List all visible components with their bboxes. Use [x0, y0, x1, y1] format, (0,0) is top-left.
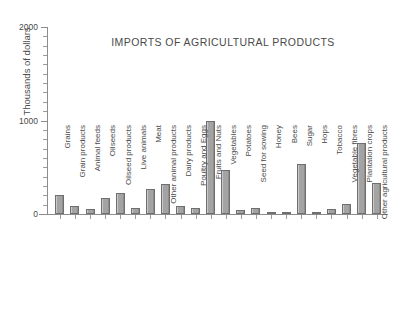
- x-axis-tick: [75, 215, 76, 219]
- x-axis-tick-label: Fruits and Nuts: [214, 125, 223, 221]
- x-axis-tick-label: Grains: [63, 125, 72, 221]
- x-axis-tick: [165, 215, 166, 219]
- x-axis-tick: [120, 215, 121, 219]
- x-axis-tick-label: Tobacco: [335, 125, 344, 221]
- x-axis-label-wrap: Other agricultural products: [380, 125, 389, 221]
- x-axis-tick: [347, 215, 348, 219]
- x-axis-tick-label: Grain products: [78, 125, 87, 221]
- x-axis-label-wrap: Live animals: [139, 125, 148, 221]
- x-axis-tick-label: Poultry and Eggs: [199, 125, 208, 221]
- x-axis-tick-label: Vegetables: [229, 125, 238, 221]
- x-axis-tick: [362, 215, 363, 219]
- x-axis-tick-label: Oilseeds: [108, 125, 117, 221]
- y-axis-tick-label: 2000: [0, 22, 38, 32]
- x-axis-tick: [150, 215, 151, 219]
- x-axis-tick: [60, 215, 61, 219]
- x-axis-label-wrap: Honey: [274, 125, 283, 221]
- x-axis-tick: [256, 215, 257, 219]
- x-axis-tick-label: Oilseed products: [124, 125, 133, 221]
- x-axis-label-wrap: Hops: [320, 125, 329, 221]
- x-axis-label-wrap: Seed for sowing: [259, 125, 268, 221]
- x-axis-tick: [331, 215, 332, 219]
- x-axis-tick: [211, 215, 212, 219]
- bar-chart: IMPORTS OF AGRICULTURAL PRODUCTS Thousan…: [0, 0, 396, 319]
- x-axis-tick: [226, 215, 227, 219]
- x-axis-label-wrap: Meat: [154, 125, 163, 221]
- x-axis-label-wrap: Potatoes: [244, 125, 253, 221]
- x-axis-label-wrap: Bees: [290, 125, 299, 221]
- x-axis-tick-label: Plantation crops: [365, 125, 374, 221]
- x-axis-label-wrap: Plantation crops: [365, 125, 374, 221]
- y-axis-tick-major: [41, 214, 47, 215]
- x-axis-tick: [271, 215, 272, 219]
- x-axis-tick: [377, 215, 378, 219]
- x-axis-tick-label: Meat: [154, 125, 163, 221]
- x-axis-tick: [316, 215, 317, 219]
- x-axis-tick-label: Live animals: [139, 125, 148, 221]
- y-axis-tick-label: 0: [0, 209, 38, 219]
- x-axis-label-wrap: Fruits and Nuts: [214, 125, 223, 221]
- x-axis-label-wrap: Grains: [63, 125, 72, 221]
- x-axis-label-wrap: Poultry and Eggs: [199, 125, 208, 221]
- x-axis-tick-label: Sugar: [305, 125, 314, 221]
- x-axis-tick: [196, 215, 197, 219]
- x-axis-tick-label: Dairy products: [184, 125, 193, 221]
- x-axis-label-wrap: Other animal products: [169, 125, 178, 221]
- x-axis-tick: [241, 215, 242, 219]
- x-axis-label-wrap: Animal feeds: [93, 125, 102, 221]
- x-axis-tick: [105, 215, 106, 219]
- x-axis-label-wrap: Oilseed products: [124, 125, 133, 221]
- x-axis-tick-label: Vegetable fibres: [350, 125, 359, 221]
- x-axis-tick-label: Bees: [290, 125, 299, 221]
- x-axis-tick: [301, 215, 302, 219]
- x-axis-label-wrap: Sugar: [305, 125, 314, 221]
- x-axis-tick: [135, 215, 136, 219]
- x-axis-tick-label: Other animal products: [169, 125, 178, 221]
- x-axis-tick-label: Honey: [274, 125, 283, 221]
- x-axis-label-wrap: Tobacco: [335, 125, 344, 221]
- x-axis-tick-label: Hops: [320, 125, 329, 221]
- x-axis-tick-label: Seed for sowing: [259, 125, 268, 221]
- x-axis-tick-label: Other agricultural products: [380, 125, 389, 221]
- x-axis-tick: [286, 215, 287, 219]
- x-axis-label-wrap: Oilseeds: [108, 125, 117, 221]
- y-axis-tick-label: 1000: [0, 116, 38, 126]
- x-axis-label-wrap: Vegetables: [229, 125, 238, 221]
- x-axis-tick-label: Potatoes: [244, 125, 253, 221]
- x-axis-tick-label: Animal feeds: [93, 125, 102, 221]
- x-axis-label-wrap: Vegetable fibres: [350, 125, 359, 221]
- x-axis-label-wrap: Dairy products: [184, 125, 193, 221]
- x-axis-label-wrap: Grain products: [78, 125, 87, 221]
- x-axis-tick: [90, 215, 91, 219]
- x-axis-tick: [181, 215, 182, 219]
